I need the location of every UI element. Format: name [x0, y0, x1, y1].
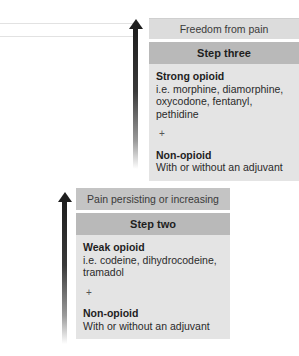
plus-sign: + — [159, 128, 292, 141]
adjuvant-note: With or without an adjuvant — [83, 320, 223, 333]
non-opioid-label: Non-opioid — [156, 149, 292, 162]
strong-opioid-examples: i.e. morphine, diamorphine, oxycodone, f… — [156, 83, 292, 121]
step-three-arrow — [131, 19, 141, 169]
step-three-body: Strong opioid i.e. morphine, diamorphine… — [149, 64, 299, 181]
arrow-shaft — [62, 201, 67, 344]
weak-opioid-label: Weak opioid — [83, 241, 223, 254]
non-opioid-label: Non-opioid — [83, 307, 223, 320]
step-two-title: Step two — [76, 213, 230, 235]
adjuvant-note: With or without an adjuvant — [156, 161, 292, 174]
weak-opioid-examples: i.e. codeine, dihydrocodeine, tramadol — [83, 254, 223, 279]
ladder-rung-line — [0, 23, 136, 37]
strong-opioid-label: Strong opioid — [156, 70, 292, 83]
step-three-box: Freedom from pain Step three Strong opio… — [149, 18, 299, 181]
step-three-outcome: Freedom from pain — [149, 18, 299, 39]
step-two-box: Pain persisting or increasing Step two W… — [76, 188, 230, 339]
step-two-outcome: Pain persisting or increasing — [76, 188, 230, 210]
arrow-shaft — [133, 28, 138, 169]
step-two-body: Weak opioid i.e. codeine, dihydrocodeine… — [76, 235, 230, 339]
step-two-arrow — [60, 192, 70, 344]
step-three-title: Step three — [149, 42, 299, 64]
plus-sign: + — [86, 287, 223, 300]
